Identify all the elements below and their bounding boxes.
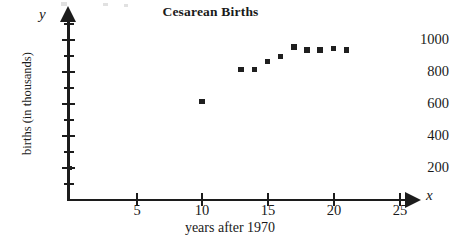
y-tick-800 [62,71,75,73]
x-axis-variable-letter: x [426,187,433,204]
y-tick-minor-700 [64,87,74,89]
x-tick-label-10: 10 [182,203,222,218]
y-tick-label-1000: 1000 [393,32,449,47]
data-point [344,47,350,53]
y-tick-minor-500 [64,119,74,121]
y-axis-title: births (in thousands) [20,9,35,199]
x-tick-label-5: 5 [117,203,157,218]
data-point [331,46,337,52]
x-axis-line [67,199,411,202]
y-tick-600 [62,103,75,105]
y-tick-minor-100 [64,183,74,185]
x-tick-label-15: 15 [248,203,288,218]
data-point [291,44,297,50]
y-axis-variable-letter: y [39,6,46,23]
y-tick-400 [62,135,75,137]
axis-origin-marker [68,166,72,170]
y-axis-arrow-icon [60,6,76,22]
y-tick-1000 [62,39,75,41]
y-tick-minor-300 [64,151,74,153]
data-point [278,54,284,60]
x-axis-title: years after 1970 [110,220,350,236]
y-tick-minor-1100 [64,23,74,25]
data-point [317,47,323,53]
x-tick-label-25: 25 [380,203,420,218]
data-point [252,67,258,73]
y-axis-line [67,18,70,201]
data-point [304,47,310,53]
y-tick-label-800: 800 [393,64,449,79]
y-tick-label-400: 400 [393,128,449,143]
y-tick-label-600: 600 [393,96,449,111]
chart-canvas: Cesarean Births y x 1000 800 600 400 200… [0,0,449,242]
data-point [265,59,271,65]
data-point [238,67,244,73]
data-point [199,99,205,105]
y-tick-minor-900 [64,55,74,57]
y-tick-label-200: 200 [393,160,449,175]
x-tick-label-20: 20 [314,203,354,218]
